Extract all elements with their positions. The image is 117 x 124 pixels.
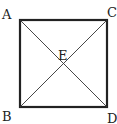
vertex-label-b: B <box>2 109 12 124</box>
intersection-label-e: E <box>58 48 68 63</box>
vertex-label-c: C <box>107 5 117 20</box>
square-diagram: A C B D E <box>0 0 117 124</box>
vertex-label-a: A <box>1 7 12 22</box>
vertex-label-d: D <box>107 111 117 124</box>
